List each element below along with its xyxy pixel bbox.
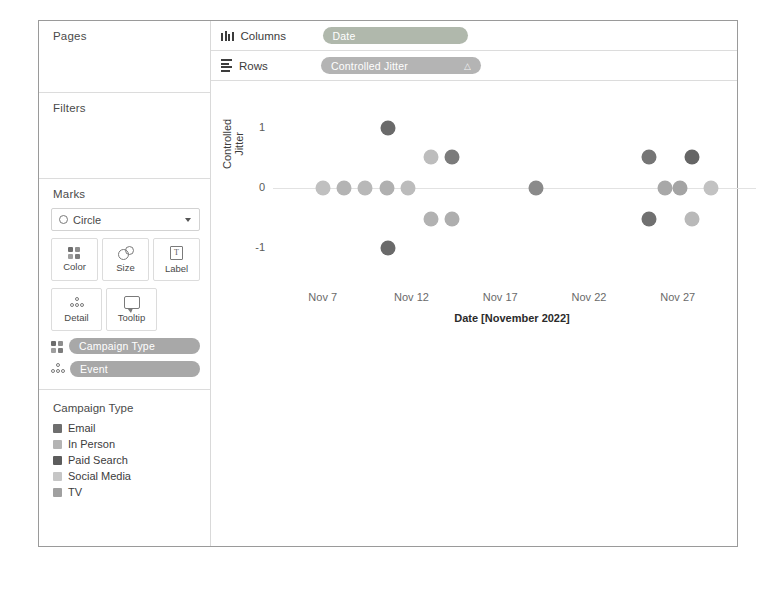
y-axis-tick-label: 0 (243, 181, 265, 193)
rows-pill-controlled-jitter[interactable]: Controlled Jitter △ (321, 57, 481, 74)
scatter-point[interactable] (684, 212, 699, 227)
marks-title: Marks (39, 188, 210, 200)
marks-pill-campaign-type-row: Campaign Type (51, 338, 200, 354)
scatter-point[interactable] (445, 149, 460, 164)
legend-swatch (53, 440, 62, 449)
tooltip-icon (124, 296, 140, 309)
legend-item[interactable]: Social Media (39, 468, 210, 484)
legend-swatch (53, 488, 62, 497)
size-button[interactable]: Size (102, 238, 149, 281)
delta-icon: △ (464, 61, 471, 71)
x-axis-tick-label: Nov 7 (308, 291, 337, 303)
scatter-point[interactable] (423, 212, 438, 227)
rows-shelf[interactable]: Rows Controlled Jitter △ (211, 51, 737, 81)
detail-icon (51, 363, 65, 375)
mark-type-dropdown[interactable]: Circle (51, 208, 200, 231)
columns-icon (221, 31, 234, 41)
x-axis-tick-label: Nov 12 (394, 291, 429, 303)
detail-button-label: Detail (64, 312, 88, 323)
legend-item[interactable]: Email (39, 420, 210, 436)
marks-pill-campaign-type[interactable]: Campaign Type (69, 338, 200, 354)
scatter-point[interactable] (315, 181, 330, 196)
x-axis-title: Date [November 2022] (454, 312, 570, 324)
scatter-point[interactable] (379, 181, 394, 196)
detail-icon (70, 297, 84, 309)
rows-icon (221, 59, 232, 72)
scatter-point[interactable] (528, 181, 543, 196)
scatter-point[interactable] (445, 212, 460, 227)
legend-swatch (53, 472, 62, 481)
scatter-point[interactable] (704, 181, 719, 196)
scatter-point[interactable] (642, 149, 657, 164)
marks-card: Marks Circle Color Size T Label (39, 179, 210, 390)
legend-item-label: Paid Search (68, 454, 128, 466)
color-icon (51, 341, 64, 352)
legend-swatch (53, 456, 62, 465)
legend-item-list: EmailIn PersonPaid SearchSocial MediaTV (39, 420, 210, 500)
scatter-point[interactable] (358, 181, 373, 196)
rows-pill-label: Controlled Jitter (331, 60, 408, 72)
size-button-label: Size (116, 262, 134, 273)
legend-item[interactable]: TV (39, 484, 210, 500)
circle-icon (59, 215, 68, 224)
worksheet-content: Columns Date Rows Controlled Jitter △ Co… (211, 21, 737, 546)
scatter-point[interactable] (684, 149, 699, 164)
scatter-point[interactable] (337, 181, 352, 196)
sidebar: Pages Filters Marks Circle Color Size (39, 21, 211, 546)
legend-item[interactable]: In Person (39, 436, 210, 452)
scatter-point[interactable] (381, 121, 396, 136)
marks-pill-event-row: Event (51, 361, 200, 377)
size-icon (118, 246, 133, 259)
tooltip-button-label: Tooltip (118, 312, 145, 323)
y-axis-title: Controlled Jitter (221, 119, 245, 169)
filters-title: Filters (39, 102, 210, 114)
label-icon: T (170, 246, 183, 260)
legend-item-label: Email (68, 422, 96, 434)
scatter-point[interactable] (400, 181, 415, 196)
legend-item-label: Social Media (68, 470, 131, 482)
tooltip-button[interactable]: Tooltip (106, 288, 157, 331)
legend-item-label: In Person (68, 438, 115, 450)
pages-panel[interactable]: Pages (39, 21, 210, 93)
color-button-label: Color (63, 261, 86, 272)
x-axis-tick-label: Nov 17 (483, 291, 518, 303)
columns-shelf[interactable]: Columns Date (211, 21, 737, 51)
visualization-area[interactable]: Controlled Jitter 10-1Nov 7Nov 12Nov 17N… (211, 81, 737, 546)
marks-row-spacer (161, 288, 200, 331)
filters-panel[interactable]: Filters (39, 93, 210, 179)
legend-title: Campaign Type (39, 402, 210, 414)
scatter-point[interactable] (642, 212, 657, 227)
columns-shelf-label: Columns (241, 30, 299, 42)
color-legend: Campaign Type EmailIn PersonPaid SearchS… (39, 390, 210, 546)
chevron-down-icon[interactable] (185, 218, 191, 222)
detail-button[interactable]: Detail (51, 288, 102, 331)
legend-item-label: TV (68, 486, 82, 498)
legend-item[interactable]: Paid Search (39, 452, 210, 468)
marks-button-row-primary: Color Size T Label (51, 238, 200, 281)
x-axis-tick-label: Nov 27 (660, 291, 695, 303)
columns-pill-date[interactable]: Date (323, 27, 468, 44)
scatter-point[interactable] (672, 181, 687, 196)
label-button-label: Label (165, 263, 188, 274)
label-button[interactable]: T Label (153, 238, 200, 281)
scatter-point[interactable] (423, 149, 438, 164)
y-axis-tick-label: -1 (243, 241, 265, 253)
tableau-worksheet-window: Pages Filters Marks Circle Color Size (38, 20, 738, 547)
legend-swatch (53, 424, 62, 433)
scatter-point[interactable] (658, 181, 673, 196)
color-icon (68, 247, 81, 258)
scatter-point[interactable] (381, 241, 396, 256)
rows-shelf-label: Rows (239, 60, 297, 72)
scatter-plot[interactable]: Controlled Jitter 10-1Nov 7Nov 12Nov 17N… (211, 81, 737, 311)
columns-pill-label: Date (333, 30, 356, 42)
marks-pill-event[interactable]: Event (70, 361, 200, 377)
mark-type-value: Circle (73, 214, 101, 226)
marks-button-row-secondary: Detail Tooltip (51, 288, 200, 331)
pages-title: Pages (39, 30, 210, 42)
x-axis-tick-label: Nov 22 (572, 291, 607, 303)
y-axis-tick-label: 1 (243, 121, 265, 133)
color-button[interactable]: Color (51, 238, 98, 281)
